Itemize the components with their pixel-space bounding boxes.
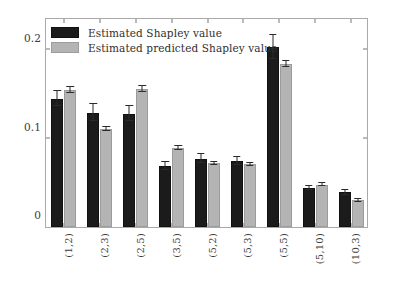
- error-bar-cap: [67, 86, 74, 87]
- x-tick-label: (3,5): [170, 233, 181, 258]
- error-bar-cap: [103, 126, 110, 127]
- bar: [195, 159, 207, 227]
- error-bar-cap: [161, 161, 168, 162]
- shapley-value-bar-chart: 00.10.2 (1,2)(2,3)(2,5)(3,5)(5,2)(5,3)(5…: [0, 0, 397, 283]
- bar: [280, 64, 292, 227]
- error-bar-cap: [269, 58, 276, 59]
- error-bar-cap: [246, 162, 253, 163]
- error-bar-cap: [103, 130, 110, 131]
- error-bar: [129, 106, 130, 121]
- bar: [87, 113, 99, 227]
- x-tick-label: (5,3): [242, 233, 253, 258]
- bar: [123, 114, 135, 227]
- error-bar-cap: [354, 201, 361, 202]
- bar: [100, 129, 112, 227]
- error-bar-cap: [174, 149, 181, 150]
- error-bar-cap: [282, 60, 289, 61]
- error-bar-cap: [139, 85, 146, 86]
- bar: [352, 200, 364, 227]
- error-bar-cap: [341, 189, 348, 190]
- chart-legend: Estimated Shapley valueEstimated predict…: [47, 22, 283, 58]
- x-tick-label: (10,3): [350, 233, 361, 264]
- error-bar-cap: [210, 164, 217, 165]
- bar: [172, 148, 184, 227]
- y-tick-mark: [46, 137, 50, 138]
- x-tick-mark: [351, 19, 352, 23]
- bar: [51, 99, 63, 227]
- error-bar-cap: [197, 162, 204, 163]
- error-bar-cap: [233, 156, 240, 157]
- y-tick-label: 0.1: [24, 121, 41, 133]
- error-bar-cap: [305, 185, 312, 186]
- bar: [303, 188, 315, 227]
- error-bar-cap: [233, 164, 240, 165]
- error-bar-cap: [305, 189, 312, 190]
- error-bar-cap: [354, 198, 361, 199]
- y-tick-label: 0.2: [24, 32, 41, 44]
- x-tick-label: (2,3): [98, 233, 109, 258]
- legend-label: Estimated predicted Shapley value: [88, 42, 277, 54]
- error-bar-cap: [161, 169, 168, 170]
- bar: [136, 89, 148, 227]
- legend-swatch: [51, 27, 79, 38]
- error-bar-cap: [90, 103, 97, 104]
- error-bar-cap: [54, 90, 61, 91]
- error-bar: [93, 104, 94, 121]
- error-bar-cap: [282, 66, 289, 67]
- bar: [208, 163, 220, 227]
- x-tick-label: (5,10): [314, 233, 325, 264]
- error-bar-cap: [174, 145, 181, 146]
- error-bar-cap: [90, 120, 97, 121]
- x-tick-label: (1,2): [62, 233, 73, 258]
- legend-item: Estimated Shapley value: [51, 25, 277, 40]
- error-bar-cap: [126, 120, 133, 121]
- bar: [339, 192, 351, 227]
- error-bar-cap: [197, 153, 204, 154]
- error-bar-cap: [67, 92, 74, 93]
- y-tick-mark: [363, 137, 367, 138]
- bar: [231, 161, 243, 227]
- x-tick-label: (5,2): [206, 233, 217, 258]
- error-bar-cap: [210, 161, 217, 162]
- legend-item: Estimated predicted Shapley value: [51, 40, 277, 55]
- bar: [159, 166, 171, 227]
- bar: [244, 164, 256, 227]
- error-bar-cap: [139, 91, 146, 92]
- error-bar-cap: [318, 185, 325, 186]
- x-tick-mark: [315, 19, 316, 23]
- y-tick-label: 0: [34, 209, 41, 221]
- error-bar-cap: [54, 105, 61, 106]
- error-bar-cap: [341, 194, 348, 195]
- bar: [316, 185, 328, 227]
- y-tick-mark: [363, 48, 367, 49]
- bar: [267, 47, 279, 227]
- error-bar: [57, 91, 58, 106]
- legend-swatch: [51, 42, 79, 53]
- error-bar-cap: [126, 105, 133, 106]
- x-tick-label: (5,5): [278, 233, 289, 258]
- x-tick-label: (2,5): [134, 233, 145, 258]
- error-bar-cap: [318, 182, 325, 183]
- legend-label: Estimated Shapley value: [88, 27, 222, 39]
- error-bar-cap: [246, 165, 253, 166]
- bar: [64, 90, 76, 227]
